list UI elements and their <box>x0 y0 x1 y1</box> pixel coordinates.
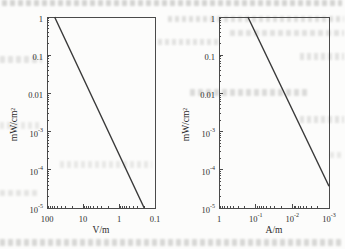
data-line <box>55 17 145 208</box>
plot-frame <box>47 17 155 208</box>
data-line <box>248 17 329 186</box>
plot-frame <box>219 17 329 208</box>
